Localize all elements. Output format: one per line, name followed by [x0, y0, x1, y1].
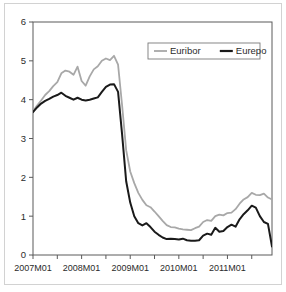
series-line-euribor	[33, 56, 272, 230]
chart-figure: 01234562007M012008M012009M012010M012011M…	[0, 0, 286, 292]
series-group	[33, 56, 272, 247]
x-axis-tick-label: 2008M01	[63, 263, 101, 273]
y-axis-tick-label: 1	[21, 211, 26, 222]
y-axis-tick-label: 4	[21, 94, 26, 105]
y-axis-tick-label: 3	[21, 133, 26, 144]
x-axis-tick-label: 2010M01	[160, 263, 198, 273]
y-axis-tick-label: 6	[21, 16, 26, 27]
y-axis-tick-label: 5	[21, 55, 26, 66]
x-axis-tick-label: 2011M01	[209, 263, 246, 273]
chart-legend: EuriborEurepo	[148, 43, 266, 59]
y-axis-tick-label: 2	[21, 172, 26, 183]
y-axis-tick-label: 0	[21, 249, 26, 260]
legend-label-eurepo: Eurepo	[236, 45, 267, 56]
legend-label-euribor: Euribor	[170, 45, 201, 56]
x-axis-tick-label: 2007M01	[14, 263, 52, 273]
series-line-eurepo	[33, 84, 272, 246]
x-axis-tick-label: 2009M01	[111, 263, 149, 273]
line-chart: 01234562007M012008M012009M012010M012011M…	[0, 0, 286, 292]
